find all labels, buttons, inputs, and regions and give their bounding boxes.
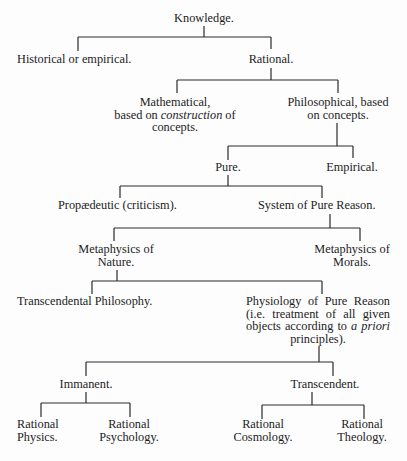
knowledge-tree-diagram: Knowledge. Historical or empirical. Rati…: [0, 0, 407, 461]
node-label-line-2: Theology.: [330, 431, 394, 444]
node-label-line-4: principles).: [246, 333, 390, 346]
node-label-line-2: Psychology.: [94, 431, 164, 444]
node-label-line-3: concepts.: [104, 121, 246, 134]
node-label-line-1: Rational: [17, 418, 59, 431]
node-label: Transcendental Philosophy.: [17, 295, 152, 308]
node-pure: Pure.: [203, 161, 253, 174]
node-philosophical: Philosophical, based on concepts.: [280, 96, 396, 121]
node-metaphysics-of-morals: Metaphysics of Morals.: [306, 243, 398, 268]
node-rational-psychology: Rational Psychology.: [94, 418, 164, 443]
node-label: Propædeutic (criticism).: [58, 199, 177, 212]
node-label: Historical or empirical.: [17, 53, 131, 66]
node-label-line-1: Rational: [232, 418, 294, 431]
node-metaphysics-of-nature: Metaphysics of Nature.: [70, 243, 162, 268]
node-physiology-of-pure-reason: Physiology of Pure Reason (i.e. treatmen…: [246, 295, 390, 345]
node-label-line-2: Physics.: [17, 431, 59, 444]
node-knowledge: Knowledge.: [164, 12, 244, 25]
node-transcendental-philosophy: Transcendental Philosophy.: [17, 295, 152, 308]
node-label-line-1: Metaphysics of: [70, 243, 162, 256]
node-rational-physics: Rational Physics.: [17, 418, 59, 443]
node-propaedeutic: Propædeutic (criticism).: [58, 199, 177, 212]
node-label: System of Pure Reason.: [258, 199, 376, 212]
node-label: Empirical.: [318, 161, 386, 174]
node-label-line-1: Philosophical, based: [280, 96, 396, 109]
node-label-line-3: objects according to a priori: [246, 320, 390, 333]
node-transcendent: Transcendent.: [280, 378, 370, 391]
connector-lines: [0, 0, 407, 461]
node-mathematical: Mathematical, based on construction of c…: [104, 96, 246, 134]
node-label: Rational.: [236, 53, 306, 66]
node-label: Knowledge.: [164, 12, 244, 25]
node-label-line-2: Morals.: [306, 256, 398, 269]
node-historical-empirical: Historical or empirical.: [17, 53, 131, 66]
node-label: Pure.: [203, 161, 253, 174]
node-label: Transcendent.: [280, 378, 370, 391]
node-label-line-1: Rational: [330, 418, 394, 431]
node-rational-theology: Rational Theology.: [330, 418, 394, 443]
node-label-line-1: Rational: [94, 418, 164, 431]
node-label-line-2: Cosmology.: [232, 431, 294, 444]
emphasis-a-priori: a priori: [351, 319, 390, 333]
node-label-line-1: Physiology of Pure Reason: [246, 295, 390, 308]
node-label: Immanent.: [46, 378, 126, 391]
node-empirical: Empirical.: [318, 161, 386, 174]
node-immanent: Immanent.: [46, 378, 126, 391]
node-label-line-2: Nature.: [70, 256, 162, 269]
node-rational-cosmology: Rational Cosmology.: [232, 418, 294, 443]
text-segment: of: [222, 108, 235, 122]
node-rational: Rational.: [236, 53, 306, 66]
node-system-of-pure-reason: System of Pure Reason.: [258, 199, 376, 212]
node-label-line-2: on concepts.: [280, 109, 396, 122]
node-label-line-1: Metaphysics of: [306, 243, 398, 256]
